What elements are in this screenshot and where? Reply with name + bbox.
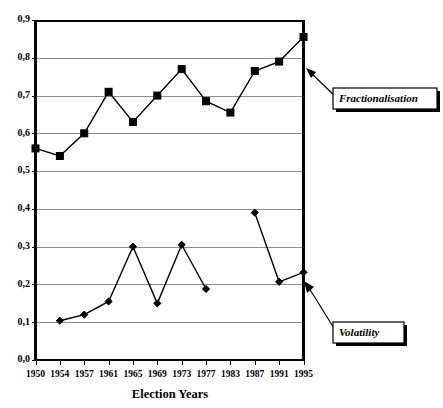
callout-volatility: Volatility	[304, 281, 407, 346]
x-tick-label: 1987	[245, 369, 264, 379]
data-point-marker	[129, 243, 136, 250]
volatility-callout-label: Volatility	[339, 326, 379, 338]
y-tick-labels-group: 0,00,10,20,30,40,50,60,70,80,9	[18, 13, 36, 364]
y-tick-label: 0,1	[18, 316, 31, 327]
data-point-marker	[154, 300, 161, 307]
data-point-marker	[227, 109, 234, 116]
volatility-line-segment	[60, 245, 206, 321]
x-tick-labels-group: 1950195419571961196519691973197719831987…	[26, 369, 313, 379]
volatility-markers	[56, 209, 307, 324]
series-volatility	[56, 209, 307, 324]
y-tick-label: 0,8	[18, 51, 31, 62]
x-axis-title-group: Election Years	[132, 387, 208, 401]
y-tick-label: 0,0	[18, 353, 31, 364]
x-tick-label: 1954	[50, 369, 69, 379]
data-point-marker	[251, 68, 258, 75]
volatility-line	[60, 213, 304, 321]
data-point-marker	[300, 34, 307, 41]
data-point-marker	[202, 285, 209, 292]
data-point-marker	[154, 92, 161, 99]
gridlines-group	[36, 59, 304, 323]
data-point-marker	[105, 298, 112, 305]
y-tick-label: 0,3	[18, 240, 31, 251]
data-point-marker	[129, 119, 136, 126]
data-point-marker	[32, 145, 39, 152]
volatility-arrow-head	[304, 281, 314, 293]
data-point-marker	[105, 88, 112, 95]
x-tick-label: 1957	[75, 369, 94, 379]
data-point-marker	[251, 209, 258, 216]
y-tick-label: 0,9	[18, 13, 31, 24]
chart-container: 0,00,10,20,30,40,50,60,70,80,9 195019541…	[0, 0, 443, 408]
data-point-marker	[300, 269, 307, 276]
y-tick-label: 0,7	[18, 89, 31, 100]
x-tick-label: 1991	[270, 369, 289, 379]
y-tick-label: 0,2	[18, 278, 31, 289]
callout-fractionalisation: Fractionalisation	[306, 68, 440, 112]
data-point-marker	[56, 317, 63, 324]
election-years-line-chart: 0,00,10,20,30,40,50,60,70,80,9 195019541…	[0, 0, 443, 408]
x-tick-label: 1977	[197, 369, 216, 379]
x-tick-label: 1983	[221, 369, 240, 379]
data-point-marker	[276, 58, 283, 65]
x-tick-label: 1950	[26, 369, 45, 379]
data-point-marker	[81, 130, 88, 137]
data-point-marker	[178, 66, 185, 73]
x-tick-marks-group	[37, 360, 305, 365]
data-point-marker	[81, 311, 88, 318]
y-tick-label: 0,5	[18, 164, 31, 175]
x-tick-label: 1965	[123, 369, 142, 379]
x-tick-label: 1995	[294, 369, 313, 379]
y-tick-label: 0,6	[18, 127, 31, 138]
x-tick-label: 1969	[148, 369, 167, 379]
fractionalisation-callout-label: Fractionalisation	[338, 92, 418, 104]
x-tick-label: 1973	[172, 369, 191, 379]
x-axis-title: Election Years	[132, 387, 208, 401]
data-point-marker	[203, 98, 210, 105]
x-tick-label: 1961	[99, 369, 118, 379]
y-tick-label: 0,4	[18, 202, 31, 213]
plot-frame	[35, 20, 304, 360]
data-point-marker	[56, 153, 63, 160]
